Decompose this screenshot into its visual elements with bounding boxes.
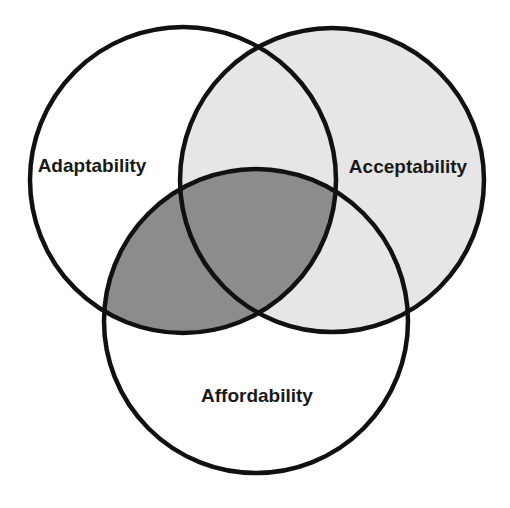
venn-diagram: Adaptability Acceptability Affordability: [0, 0, 510, 508]
affordability-label: Affordability: [201, 385, 313, 406]
acceptability-label: Acceptability: [349, 156, 468, 177]
adaptability-label: Adaptability: [38, 155, 147, 176]
